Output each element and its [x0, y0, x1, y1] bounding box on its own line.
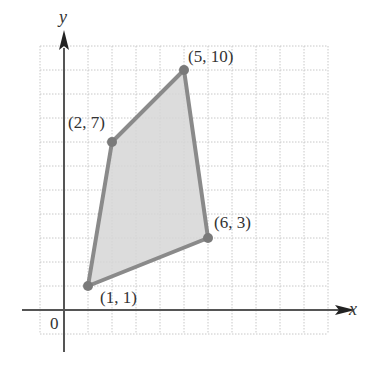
vertex-point — [83, 281, 93, 291]
vertex-label-5-10: (5, 10) — [188, 47, 233, 66]
coordinate-plane: x y 0 (1, 1) (2, 7) (5, 10) (6, 3) — [0, 0, 371, 368]
x-axis-label: x — [348, 299, 357, 319]
vertex-point — [179, 65, 189, 75]
vertex-label-2-7: (2, 7) — [68, 113, 105, 132]
shaded-polygon — [88, 70, 208, 286]
vertex-point — [107, 137, 117, 147]
origin-label: 0 — [50, 314, 59, 333]
vertex-label-6-3: (6, 3) — [214, 213, 251, 232]
vertex-point — [203, 233, 213, 243]
vertex-label-1-1: (1, 1) — [100, 288, 137, 307]
y-axis-label: y — [57, 7, 67, 27]
